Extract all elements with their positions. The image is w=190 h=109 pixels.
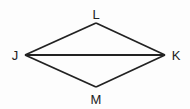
segment-jl xyxy=(25,23,96,55)
vertex-label-l: L xyxy=(92,7,99,22)
vertex-label-k: K xyxy=(172,48,181,63)
rhombus-figure: L J K M xyxy=(0,0,190,109)
segment-lk xyxy=(96,23,165,55)
segment-km xyxy=(96,55,165,87)
vertex-label-m: M xyxy=(91,92,102,107)
vertex-label-j: J xyxy=(12,48,19,63)
segment-mj xyxy=(25,55,96,87)
geometry-diagram: L J K M xyxy=(0,0,190,109)
